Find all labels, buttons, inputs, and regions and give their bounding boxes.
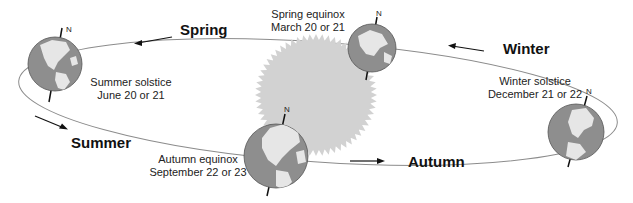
north-label-spring: N [376, 9, 382, 18]
event-date: June 20 or 21 [86, 89, 176, 102]
event-date: September 22 or 23 [148, 166, 248, 179]
event-name: Summer solstice [86, 76, 176, 89]
north-label-autumn: N [284, 105, 290, 114]
globe-winter-solstice [548, 96, 604, 167]
orbit-diagram: N N N N Summer solstice June 20 or 21 Sp… [0, 0, 633, 203]
label-spring-equinox: Spring equinox March 20 or 21 [258, 8, 358, 34]
arrow-autumn [350, 158, 385, 164]
season-label-summer: Summer [71, 134, 131, 151]
event-date: December 21 or 22 [480, 88, 590, 101]
label-summer-solstice: Summer solstice June 20 or 21 [86, 76, 176, 102]
season-label-spring: Spring [180, 21, 228, 38]
arrow-spring [134, 37, 172, 46]
event-name: Winter solstice [480, 75, 590, 88]
event-name: Autumn equinox [148, 153, 248, 166]
north-label-summer: N [66, 25, 72, 34]
label-winter-solstice: Winter solstice December 21 or 22 [480, 75, 590, 101]
globe-summer-solstice [28, 28, 82, 102]
event-date: March 20 or 21 [258, 21, 358, 34]
label-autumn-equinox: Autumn equinox September 22 or 23 [148, 153, 248, 179]
season-label-autumn: Autumn [408, 153, 465, 170]
season-label-winter: Winter [503, 40, 550, 57]
event-name: Spring equinox [258, 8, 358, 21]
arrow-summer [35, 116, 68, 130]
arrow-winter [448, 43, 484, 51]
